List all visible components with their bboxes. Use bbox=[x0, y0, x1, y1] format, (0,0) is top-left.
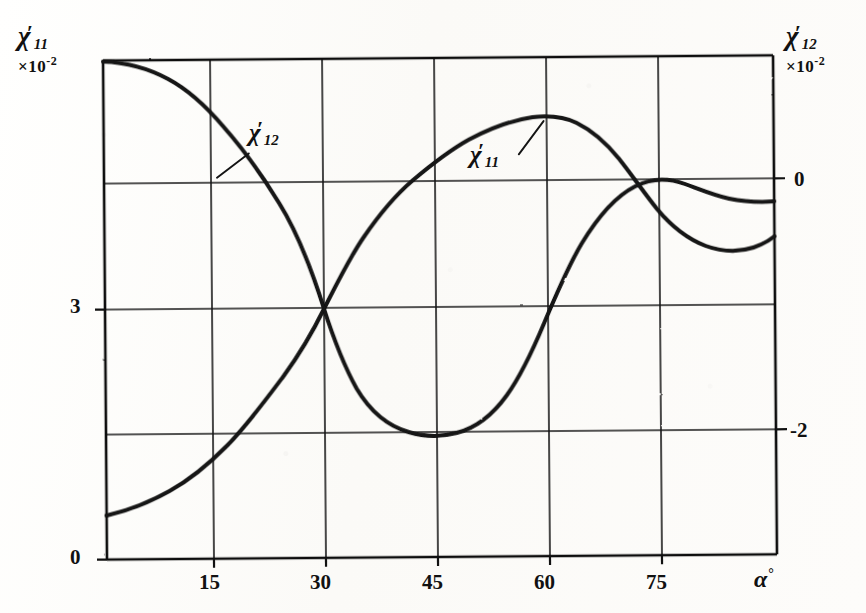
left-axis-subscript: 11 bbox=[34, 36, 48, 52]
x-tick-label-45: 45 bbox=[422, 572, 443, 593]
grid-lines bbox=[103, 55, 777, 559]
curve-chi-11 bbox=[104, 115, 777, 516]
left-axis-scale: ×10-2 bbox=[18, 55, 57, 75]
figure-canvas: χ′11 ×10-2 χ′12 ×10-2 3 0 0 -2 15 30 45 … bbox=[0, 0, 866, 613]
right-axis-scale-exponent: -2 bbox=[814, 54, 825, 68]
x-axis-alpha-glyph: α bbox=[754, 566, 767, 592]
right-axis-scale: ×10-2 bbox=[786, 55, 825, 75]
gridline-y-3left bbox=[105, 304, 775, 309]
left-tick-label-0: 0 bbox=[70, 547, 81, 568]
x-tick-label-15: 15 bbox=[199, 572, 220, 593]
left-axis-scale-exponent: -2 bbox=[46, 54, 57, 68]
right-axis-symbol: χ′12 bbox=[786, 22, 825, 52]
left-axis-caption: χ′11 ×10-2 bbox=[18, 22, 57, 75]
chi-11-annotation-subscript: 11 bbox=[485, 154, 499, 170]
left-axis-prime-glyph: ′ bbox=[27, 20, 33, 45]
frame-bottom bbox=[107, 554, 777, 559]
left-axis-scale-text: ×10 bbox=[18, 57, 46, 76]
right-tick-label-m2: -2 bbox=[790, 420, 808, 441]
chi-12-annotation-subscript: 12 bbox=[264, 132, 279, 148]
frame-top bbox=[103, 55, 773, 60]
curve-chi-12 bbox=[103, 56, 776, 438]
x-tick-label-60: 60 bbox=[534, 572, 555, 593]
left-tick-label-3: 3 bbox=[70, 296, 81, 317]
x-tick-label-75: 75 bbox=[646, 572, 667, 593]
x-tick-label-30: 30 bbox=[310, 572, 331, 593]
tick-marks bbox=[94, 178, 788, 568]
chi-12-annotation-prime: ′ bbox=[257, 116, 263, 141]
chi-11-annotation-prime: ′ bbox=[478, 138, 484, 163]
left-axis-symbol: χ′11 bbox=[18, 22, 57, 52]
x-axis-degree-glyph: ° bbox=[768, 566, 774, 581]
right-axis-caption: χ′12 ×10-2 bbox=[786, 22, 825, 75]
right-axis-prime-glyph: ′ bbox=[795, 20, 801, 45]
leader-chi-12 bbox=[217, 153, 249, 177]
right-axis-scale-text: ×10 bbox=[786, 57, 814, 76]
right-tick-label-0: 0 bbox=[794, 169, 805, 190]
plot-area bbox=[0, 0, 866, 613]
leader-chi-11 bbox=[519, 121, 544, 154]
chi-11-annotation: χ′11 bbox=[470, 140, 499, 170]
right-axis-subscript: 12 bbox=[802, 36, 817, 52]
chi-12-annotation: χ′12 bbox=[249, 118, 279, 148]
x-axis-label: α° bbox=[754, 566, 774, 593]
